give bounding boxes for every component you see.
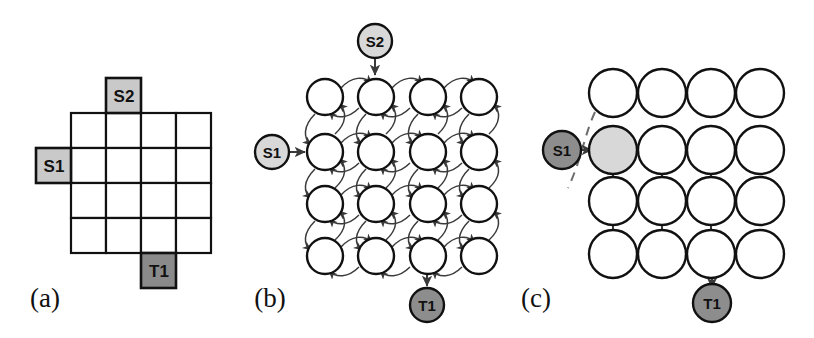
- graph-node: [358, 186, 394, 222]
- graph-node: [461, 238, 497, 274]
- grid-cell: [106, 113, 141, 148]
- grid-cell: [106, 183, 141, 218]
- graph-node: [638, 126, 686, 174]
- graph-node: [307, 79, 343, 115]
- grid-cell: [176, 148, 211, 183]
- graph-node: [410, 186, 446, 222]
- graph-node: [307, 186, 343, 222]
- graph-node: [410, 79, 446, 115]
- graph-node: [358, 79, 394, 115]
- graph-node: [461, 134, 497, 170]
- graph-node: [687, 69, 735, 117]
- panel-a-source-s1: S1: [36, 148, 71, 183]
- graph-node: [736, 230, 784, 278]
- graph-node: [589, 230, 637, 278]
- grid-cell: [106, 148, 141, 183]
- figure-root: S2 S1 T1 (a): [0, 0, 814, 338]
- graph-node: [461, 186, 497, 222]
- graph-node: [736, 69, 784, 117]
- grid-cell: [71, 148, 106, 183]
- panel-caption-a: (a): [30, 283, 60, 313]
- target-box-t1: [141, 253, 176, 288]
- panel-a-target-t1: T1: [141, 253, 176, 288]
- panel-caption-b: (b): [254, 283, 285, 313]
- grid-cell: [176, 183, 211, 218]
- source-node-s1: [255, 135, 289, 169]
- panel-b-source-s2: S2: [358, 24, 392, 58]
- graph-node: [589, 69, 637, 117]
- grid-cell: [176, 113, 211, 148]
- panel-caption-c: (c): [521, 283, 551, 313]
- graph-node: [736, 126, 784, 174]
- graph-node: [736, 177, 784, 225]
- graph-node: [638, 177, 686, 225]
- grid-cell: [71, 183, 106, 218]
- grid-cell: [176, 218, 211, 253]
- graph-node: [410, 238, 446, 274]
- figure-canvas: S2 S1 T1 (a): [0, 0, 814, 338]
- panel-b-source-s1: S1: [255, 135, 289, 169]
- grid-cell: [71, 218, 106, 253]
- graph-node: [358, 134, 394, 170]
- graph-node: [687, 177, 735, 225]
- source-box-s2: [106, 78, 141, 113]
- panel-a-grid: [71, 113, 211, 253]
- grid-cell: [141, 183, 176, 218]
- source-box-s1: [36, 148, 71, 183]
- target-node-t1: [693, 284, 731, 322]
- grid-cell: [141, 113, 176, 148]
- graph-node: [307, 238, 343, 274]
- graph-node: [589, 177, 637, 225]
- graph-node: [461, 79, 497, 115]
- graph-node: [307, 134, 343, 170]
- panel-c-target-t1: T1: [693, 284, 731, 322]
- grid-cell: [141, 148, 176, 183]
- graph-node: [410, 134, 446, 170]
- graph-node: [687, 126, 735, 174]
- graph-node: [687, 230, 735, 278]
- panel-c-source-s1: S1: [543, 131, 581, 169]
- graph-node-highlighted: [589, 126, 637, 174]
- target-node-t1: [410, 288, 444, 322]
- graph-node: [358, 238, 394, 274]
- graph-node: [638, 69, 686, 117]
- graph-node: [638, 230, 686, 278]
- source-node-s2: [358, 24, 392, 58]
- panel-b-target-t1: T1: [410, 288, 444, 322]
- grid-cell: [141, 218, 176, 253]
- grid-cell: [106, 218, 141, 253]
- grid-cell: [71, 113, 106, 148]
- panel-a-source-s2: S2: [106, 78, 141, 113]
- source-node-s1: [543, 131, 581, 169]
